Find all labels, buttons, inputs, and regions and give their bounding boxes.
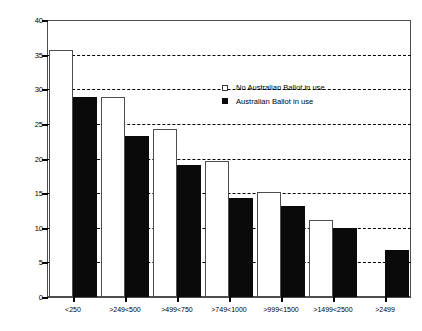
x-tick-mark [125, 297, 127, 302]
legend-item-label: No Australian Ballot in use [236, 84, 325, 92]
y-tick-label: 15 [35, 189, 43, 198]
y-tick-label: 10 [35, 223, 43, 232]
legend-swatch-icon [222, 85, 228, 91]
x-tick-label: <250 [65, 306, 81, 313]
x-tick-mark [177, 297, 179, 302]
bar [229, 198, 253, 297]
x-tick-label: >749<1000 [211, 306, 246, 313]
plot-area: 0510152025303540 <250>249<500>499<750>74… [47, 20, 411, 297]
x-tick-mark [281, 297, 283, 302]
bar [125, 136, 149, 297]
legend-item: No Australian Ballot in use [222, 84, 325, 92]
x-tick-label: >2499 [375, 306, 395, 313]
y-tick-label: 25 [35, 119, 43, 128]
legend-item-label: Australian Ballot in use [236, 98, 313, 106]
bar [153, 129, 177, 297]
bar [101, 97, 125, 297]
bar [385, 250, 409, 297]
bar-chart: Percentage of Registered Voters in Atten… [0, 0, 422, 331]
bar [73, 97, 97, 297]
bar [177, 165, 201, 297]
x-tick-label: >249<500 [109, 306, 141, 313]
x-tick-mark [73, 297, 75, 302]
y-tick-label: 5 [39, 258, 43, 267]
y-tick-label: 40 [35, 16, 43, 25]
y-tick-label: 20 [35, 154, 43, 163]
x-tick-label: >499<750 [161, 306, 193, 313]
bar [309, 220, 333, 297]
x-tick-label: >1499<2500 [313, 306, 352, 313]
x-tick-mark [229, 297, 231, 302]
x-tick-label: >999<1500 [263, 306, 298, 313]
legend-swatch-icon [222, 98, 228, 104]
gridline [47, 55, 411, 56]
bar [49, 50, 73, 297]
gridline [47, 20, 411, 21]
x-tick-mark [385, 297, 387, 302]
bar [257, 192, 281, 297]
bar [281, 206, 305, 297]
y-tick-label: 35 [35, 50, 43, 59]
chart-legend: No Australian Ballot in useAustralian Ba… [222, 84, 325, 111]
bar [333, 228, 357, 297]
y-tick-label: 30 [35, 85, 43, 94]
x-tick-mark [333, 297, 335, 302]
y-tick-label: 0 [39, 293, 43, 302]
legend-item: Australian Ballot in use [222, 98, 325, 106]
bar [205, 161, 229, 297]
